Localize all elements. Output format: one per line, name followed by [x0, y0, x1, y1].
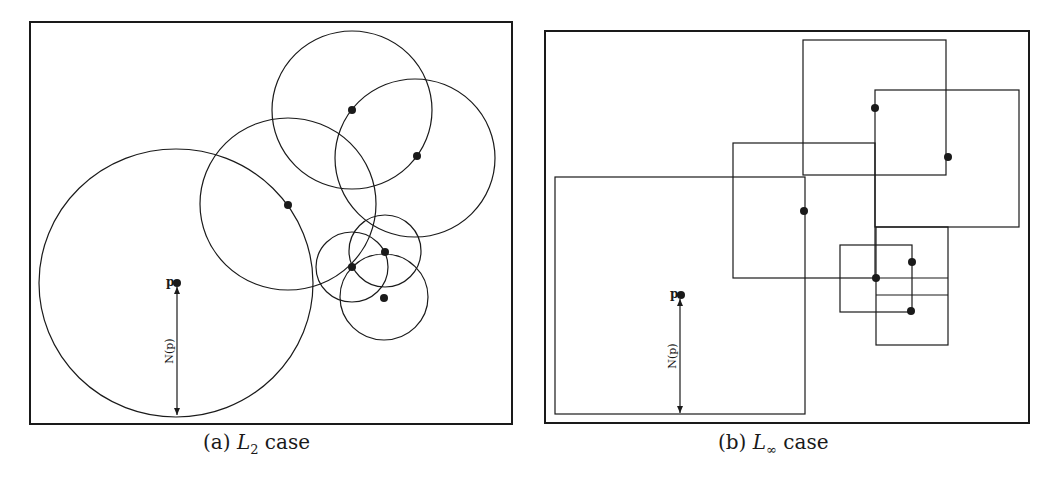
data-point: [284, 201, 292, 209]
caption-linf-case: (b) L∞ case: [718, 430, 829, 457]
data-point: [907, 307, 915, 315]
query-point-label: p: [166, 275, 174, 289]
caption-a-suffix: case: [265, 430, 310, 454]
arrowhead-up-icon: [174, 287, 180, 294]
caption-l2-case: (a) L2 case: [203, 430, 310, 457]
query-point-label: p: [670, 287, 678, 301]
data-point: [944, 153, 952, 161]
data-point: [872, 274, 880, 282]
arrowhead-down-icon: [677, 406, 683, 413]
radius-label: N(p): [666, 343, 679, 368]
data-point: [800, 207, 808, 215]
data-point: [908, 258, 916, 266]
panel-linf-case: pN(p): [545, 31, 1029, 423]
caption-b-prefix: (b): [718, 430, 746, 454]
data-point: [348, 106, 356, 114]
caption-b-suffix: case: [783, 430, 828, 454]
caption-a-prefix: (a): [203, 430, 231, 454]
caption-b-math: L: [753, 430, 766, 454]
caption-a-subscript: 2: [250, 442, 258, 457]
radius-label: N(p): [163, 338, 176, 363]
caption-b-subscript: ∞: [766, 442, 777, 457]
data-point: [348, 263, 356, 271]
arrowhead-down-icon: [174, 408, 180, 415]
figure-canvas: pN(p) pN(p): [0, 0, 1053, 478]
data-point: [871, 104, 879, 112]
caption-a-math: L: [237, 430, 250, 454]
data-point: [381, 248, 389, 256]
data-point: [413, 152, 421, 160]
data-point: [380, 294, 388, 302]
panel-l2-case: pN(p): [30, 22, 512, 424]
